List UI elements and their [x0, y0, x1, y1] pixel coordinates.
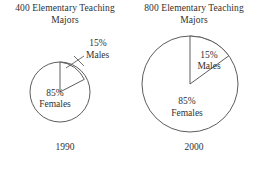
chart-title-1990-line1: 400 Elementary Teaching: [0, 2, 130, 14]
pie-1990-males-leader-tick: [74, 56, 84, 66]
pie-chart-1990: 15% Males 85% Females: [22, 38, 130, 130]
chart-panel-2000: 800 Elementary Teaching Majors 15% Males…: [129, 0, 259, 174]
pie-chart-comparison-figure: 400 Elementary Teaching Majors 15% Males…: [0, 0, 259, 174]
pie-1990-females-percent-label: 85%: [46, 88, 64, 98]
pie-2000-females-percent-label: 85%: [178, 96, 196, 106]
chart-title-2000: 800 Elementary Teaching Majors: [129, 2, 259, 26]
pie-2000-males-percent-label: 15%: [200, 50, 218, 60]
chart-panel-1990: 400 Elementary Teaching Majors 15% Males…: [0, 0, 130, 174]
pie-1990-males-name-label: Males: [86, 50, 110, 60]
chart-title-2000-line1: 800 Elementary Teaching: [129, 2, 259, 14]
chart-title-1990: 400 Elementary Teaching Majors: [0, 2, 130, 26]
year-label-2000: 2000: [129, 142, 259, 152]
pie-2000-males-name-label: Males: [197, 61, 221, 71]
chart-title-1990-line2: Majors: [0, 14, 130, 26]
pie-1990-females-name-label: Females: [39, 99, 71, 109]
year-label-1990: 1990: [0, 142, 130, 152]
pie-2000-females-name-label: Females: [171, 108, 203, 118]
pie-chart-2000: 15% Males 85% Females: [137, 28, 251, 138]
chart-title-2000-line2: Majors: [129, 14, 259, 26]
pie-1990-males-percent-label: 15%: [89, 38, 107, 48]
